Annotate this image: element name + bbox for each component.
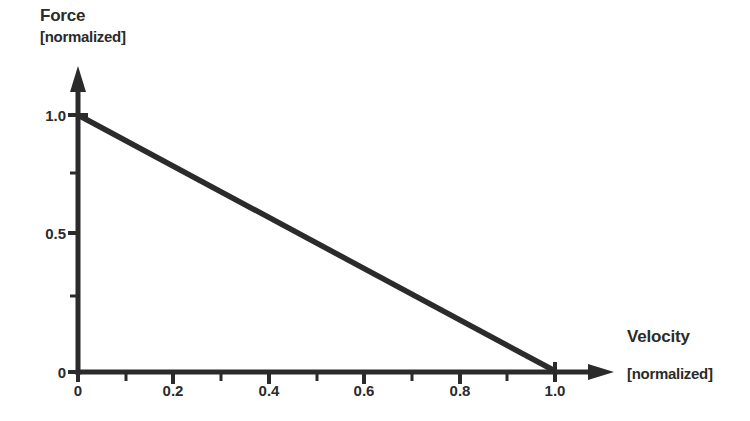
y-tick-label: 0.5	[20, 225, 66, 242]
x-tick-label: 0.4	[259, 382, 280, 399]
force-velocity-chart: Force [normalized] Velocity [normalized]…	[0, 0, 750, 421]
x-tick-label: 1.0	[545, 382, 566, 399]
y-axis	[70, 66, 86, 375]
x-axis-title: Velocity	[627, 327, 713, 347]
y-tick-label: 0	[20, 364, 66, 381]
x-tick-label: 0.8	[450, 382, 471, 399]
x-axis	[76, 364, 614, 380]
x-axis-units: [normalized]	[627, 365, 713, 382]
x-axis-label-block: Velocity [normalized]	[627, 327, 713, 382]
x-tick-label: 0.6	[354, 382, 375, 399]
series-force-velocity	[78, 115, 555, 371]
y-axis-units: [normalized]	[40, 28, 126, 45]
x-tick-label: 0	[74, 382, 82, 399]
y-tick-label: 1.0	[20, 107, 66, 124]
y-axis-title: Force	[40, 6, 126, 26]
x-tick-label: 0.2	[163, 382, 184, 399]
y-axis-label-block: Force [normalized]	[40, 6, 126, 45]
